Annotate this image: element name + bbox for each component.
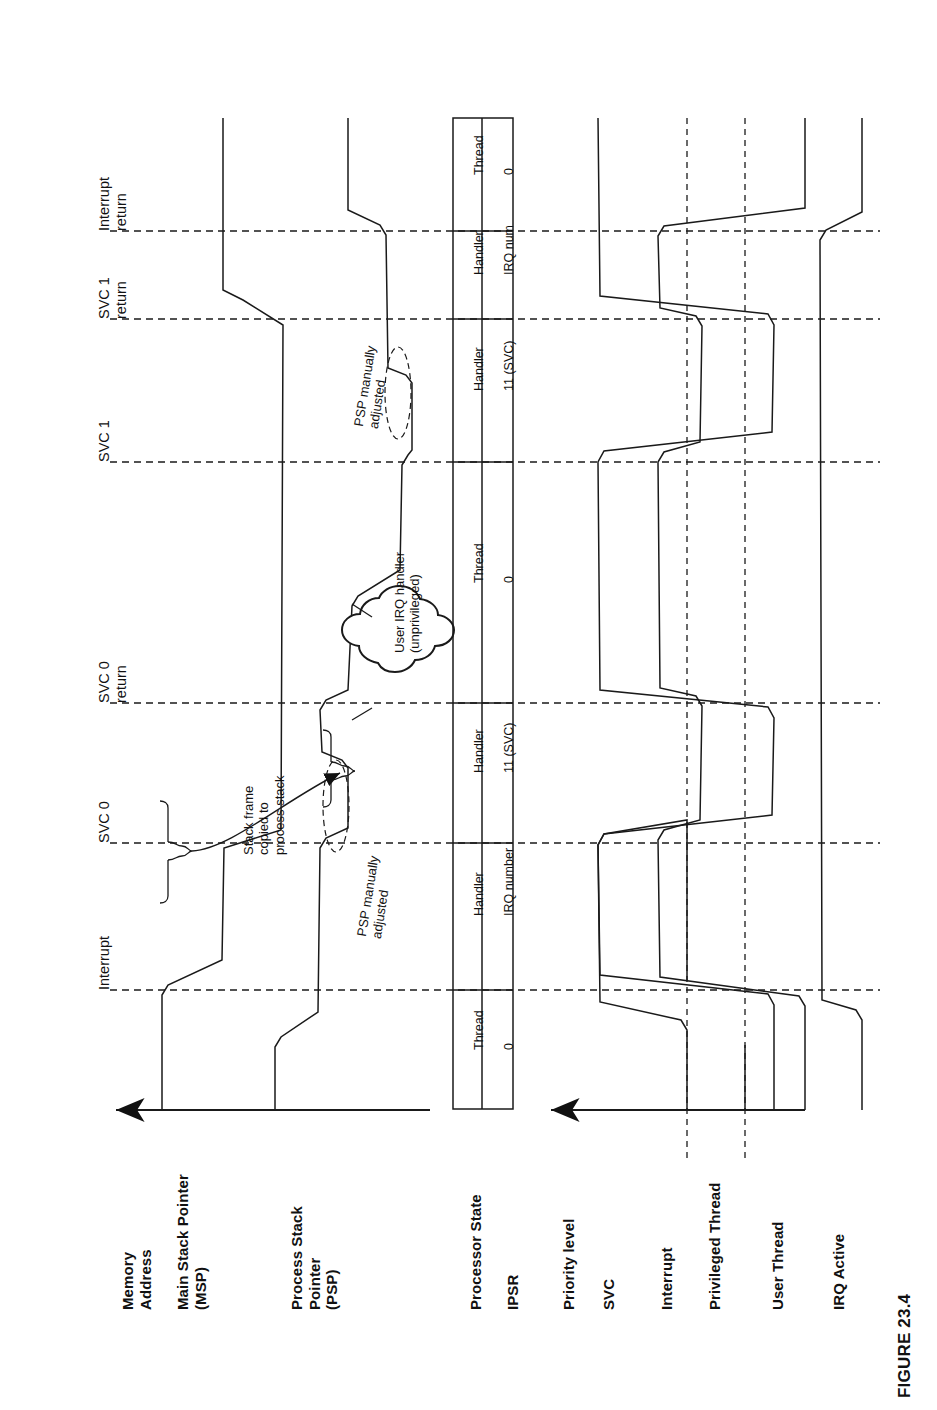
brace-msp: [168, 842, 192, 860]
svc-waveform: [598, 118, 774, 1110]
psp-adjust-ellipse-2: [385, 347, 411, 439]
interrupt-waveform: [658, 118, 805, 1110]
level-reference-lines: [687, 118, 745, 1160]
event-gridlines: [110, 231, 880, 990]
brace-msp-tail: [160, 801, 168, 903]
msp-waveform: [162, 118, 283, 1110]
brace-psp: [331, 762, 355, 780]
irq-active-waveform: [820, 118, 862, 1110]
privileged-thread-waveform: [598, 820, 687, 1110]
figure-canvas: Interrupt SVC 0 SVC 0 return SVC 1 SVC 1…: [0, 0, 937, 1410]
brace-psp-tail: [323, 730, 331, 807]
cloud-pointer-2: [352, 708, 372, 720]
